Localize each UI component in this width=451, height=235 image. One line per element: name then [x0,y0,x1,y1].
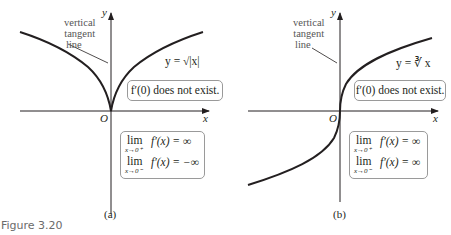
y-axis-label-b: y [331,6,336,18]
origin-label-b: O [329,112,337,124]
origin-label-a: O [100,112,108,124]
derivative-note-a: f′(0) does not exist. [131,84,220,96]
x-axis-label-a: x [203,112,208,124]
x-axis-label-b: x [433,112,438,124]
panel-label-a: (a) [104,208,116,220]
derivative-note-box-b: f′(0) does not exist. [354,80,446,101]
panel-label-b: (b) [333,208,346,220]
derivative-note-b: f′(0) does not exist. [356,84,445,96]
equation-label-b: y = ∛ x [396,56,431,70]
vertical-tangent-annotation-b: vertical tangent line [293,17,324,50]
limit-row-right-b: lim x→0⁺ f′(x) = ∞ [350,133,427,154]
limit-row-left-a: lim x→0⁻ f′(x) = −∞ [121,154,204,175]
figure-caption: Figure 3.20 [1,219,63,232]
vertical-tangent-annotation-a: vertical tangent line [64,17,95,50]
limit-row-right-a: lim x→0⁺ f′(x) = ∞ [121,133,204,154]
derivative-note-box-a: f′(0) does not exist. [127,80,223,101]
equation-label-a: y = √|x| [165,55,200,67]
limit-row-left-b: lim x→0⁻ f′(x) = ∞ [350,154,427,175]
limits-box-b: lim x→0⁺ f′(x) = ∞ lim x→0⁻ f′(x) = ∞ [349,131,428,179]
limits-box-a: lim x→0⁺ f′(x) = ∞ lim x→0⁻ f′(x) = −∞ [120,131,205,179]
y-axis-label-a: y [102,6,107,18]
pointer-line-b [312,48,337,63]
